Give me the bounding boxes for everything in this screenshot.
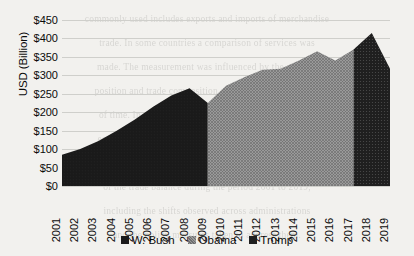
legend-swatch-icon [249,236,257,244]
y-axis-tick-label: $250 [22,88,58,100]
area-series-w-bush [62,88,208,186]
legend-entry-w-bush[interactable]: W. Bush [121,234,175,246]
y-axis-tick-label: $150 [22,125,58,137]
y-axis-tick-label: $200 [22,106,58,118]
chart-legend: W. BushObamaTrump [0,234,414,246]
legend-entry-obama[interactable]: Obama [188,234,237,246]
y-axis-tick-label: $0 [22,180,58,192]
x-axis-tick-labels: 2001200220032004200520062007200820092010… [62,188,390,230]
gridline [62,186,390,187]
plot-area [62,20,390,186]
y-axis-tick-labels: $0$50$100$150$200$250$300$350$400$450 [22,20,58,186]
area-series-trump [354,33,390,186]
y-axis-tick-label: $350 [22,51,58,63]
y-axis-tick-label: $400 [22,32,58,44]
legend-swatch-icon [121,236,129,244]
y-axis-tick-label: $100 [22,143,58,155]
legend-label: W. Bush [132,234,175,246]
area-series-obama [208,50,354,186]
legend-swatch-icon [188,236,196,244]
y-axis-tick-label: $50 [22,162,58,174]
legend-label: Obama [199,234,237,246]
area-series-svg [62,20,390,186]
legend-entry-trump[interactable]: Trump [249,234,293,246]
legend-label: Trump [260,234,293,246]
y-axis-tick-label: $450 [22,14,58,26]
area-chart-figure: USD (Billion) $0$50$100$150$200$250$300$… [0,0,414,256]
y-axis-tick-label: $300 [22,69,58,81]
